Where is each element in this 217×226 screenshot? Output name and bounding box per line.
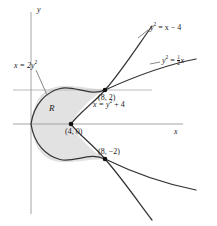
point-marker-4-0: [69, 122, 74, 127]
curve-label-outer-text: x = 2y: [14, 61, 35, 70]
fraction-denominator: 2: [177, 60, 180, 67]
point-marker-8-2: [103, 88, 108, 93]
branch-label-upper-rhs: = x − 4: [156, 23, 181, 32]
leader-line-lower-branch: [150, 62, 160, 64]
point-label-4-0: (4, 0): [65, 128, 82, 136]
region-label-R: R: [49, 104, 55, 113]
fraction-one-half: 12: [177, 55, 180, 68]
branch-label-lower-var: x: [181, 56, 185, 65]
curve-label-outer: x = 2y2: [14, 60, 37, 70]
parabola-region-figure: y x x = 2y2 x = y2 + 4 y2 = x − 4 y2 = 1…: [0, 0, 217, 226]
curve-x-equals-y-squared-plus-4: [71, 26, 152, 220]
point-label-8-minus2: (8, −2): [98, 148, 120, 156]
branch-label-upper: y2 = x − 4: [150, 22, 181, 32]
figure-canvas: [0, 0, 217, 226]
leader-line-outer-curve: [36, 70, 47, 95]
branch-label-lower: y2 = 12x: [162, 55, 184, 68]
branch-label-lower-eq: =: [168, 56, 177, 65]
y-axis-label: y: [37, 6, 41, 14]
point-marker-8-minus2: [103, 157, 108, 162]
point-label-8-2: (8, 2): [98, 94, 115, 102]
curve-label-outer-exponent: 2: [35, 59, 38, 65]
x-axis-label: x: [174, 128, 178, 136]
